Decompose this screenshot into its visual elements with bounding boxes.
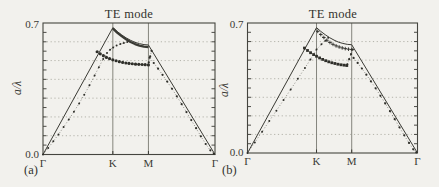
svg-text:Γ: Γ — [212, 157, 218, 169]
svg-text:0.0: 0.0 — [25, 148, 39, 160]
svg-text:M: M — [144, 157, 154, 169]
svg-text:0.7: 0.7 — [230, 18, 244, 30]
svg-text:K: K — [109, 157, 117, 169]
svg-text:Γ: Γ — [244, 155, 250, 167]
svg-text:Γ: Γ — [414, 155, 420, 167]
panel-label-b: (b) — [222, 163, 237, 178]
figure-canvas: TE mode TE mode 0.70.0ΓKMΓ 0.70.0ΓKMΓ a/… — [0, 0, 439, 187]
svg-text:0.0: 0.0 — [230, 146, 244, 158]
y-axis-label-b: a/λ — [218, 75, 232, 105]
panel-label-a: (a) — [24, 163, 38, 178]
y-axis-label-a: a/λ — [11, 73, 25, 103]
svg-text:Γ: Γ — [40, 157, 46, 169]
band-diagram-a: 0.70.0ΓKMΓ — [0, 0, 220, 187]
svg-text:M: M — [347, 155, 357, 167]
svg-text:0.7: 0.7 — [25, 18, 39, 30]
svg-text:K: K — [313, 155, 321, 167]
band-diagram-b: 0.70.0ΓKMΓ — [220, 0, 439, 187]
